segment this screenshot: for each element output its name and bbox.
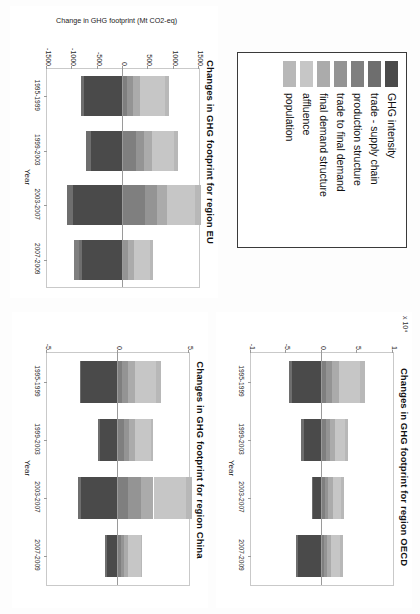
legend-item-label: population bbox=[285, 93, 296, 141]
legend-item: trade - supply chain bbox=[368, 61, 382, 239]
y-tick-label: -500 bbox=[95, 52, 102, 66]
legend-swatch bbox=[284, 61, 297, 87]
bar-segment bbox=[312, 477, 313, 520]
bar-stack bbox=[251, 469, 393, 527]
bar-segment bbox=[165, 76, 170, 116]
y-tick-label: -1500 bbox=[45, 48, 52, 66]
bar-segment bbox=[296, 535, 298, 578]
legend-swatch bbox=[352, 61, 365, 87]
x-tick-mark bbox=[44, 440, 47, 441]
bar-segment bbox=[133, 76, 141, 116]
bar-stack bbox=[47, 124, 199, 179]
y-tick-label: 500 bbox=[146, 54, 153, 66]
bar-segment bbox=[78, 477, 81, 520]
bar-segment bbox=[98, 419, 99, 462]
bar-segment bbox=[151, 419, 154, 462]
bar bbox=[251, 361, 393, 404]
bar-segment bbox=[174, 131, 178, 171]
legend-item: final demand structure bbox=[317, 61, 331, 239]
bar bbox=[251, 535, 393, 578]
bar bbox=[47, 240, 199, 280]
y-tick-label: 5 bbox=[355, 346, 362, 350]
x-tick-mark bbox=[44, 260, 47, 261]
legend-item: GHG intensity bbox=[385, 61, 399, 239]
x-tick-mark bbox=[44, 96, 47, 97]
bar-segment bbox=[105, 535, 106, 578]
legend-item-label: production structure bbox=[353, 93, 364, 186]
bar-segment bbox=[156, 361, 160, 404]
bar-segment bbox=[128, 477, 141, 520]
bar-segment bbox=[289, 361, 292, 404]
plot-area-eu bbox=[46, 68, 200, 288]
bar-segment bbox=[128, 361, 135, 404]
plot-area-oecd bbox=[250, 352, 394, 586]
y-tick-label: 5 bbox=[187, 346, 194, 350]
bar-segment bbox=[67, 185, 74, 225]
y-tick-mark bbox=[46, 66, 47, 69]
bar-segment bbox=[298, 535, 322, 578]
bar-segment bbox=[360, 361, 364, 404]
legend-item: population bbox=[283, 61, 297, 239]
y-tick-label: -5 bbox=[284, 344, 291, 350]
x-tick-label: 1995-1999 bbox=[34, 79, 41, 111]
x-tick-label: 1999-2003 bbox=[238, 423, 245, 455]
y-tick-label: -5 bbox=[45, 344, 52, 350]
bar-segment bbox=[332, 361, 339, 404]
bar bbox=[47, 419, 189, 462]
legend-swatch bbox=[335, 61, 348, 87]
zero-line bbox=[122, 69, 123, 287]
x-tick-label: 1995-1999 bbox=[238, 365, 245, 397]
bar-segment bbox=[304, 419, 322, 462]
bar-stack bbox=[47, 527, 189, 585]
y-tick-mark bbox=[46, 350, 47, 353]
bar-stack bbox=[47, 178, 199, 233]
legend-item-label: affluence bbox=[302, 93, 313, 135]
bar-stack bbox=[47, 411, 189, 469]
x-tick-mark bbox=[44, 205, 47, 206]
y-tick-label: 0 bbox=[320, 346, 327, 350]
bar bbox=[47, 361, 189, 404]
legend-item-label: trade - supply chain bbox=[370, 93, 381, 185]
x-tick-mark bbox=[44, 498, 47, 499]
bar-segment bbox=[331, 535, 341, 578]
bar-segment bbox=[301, 419, 303, 462]
x-tick-label: 2003-2007 bbox=[34, 481, 41, 513]
bar-stack bbox=[251, 411, 393, 469]
bar-segment bbox=[100, 419, 118, 462]
bar-segment bbox=[73, 185, 123, 225]
x-tick-mark bbox=[248, 382, 251, 383]
bar-group-china bbox=[47, 353, 189, 585]
bar bbox=[47, 131, 199, 171]
legend-swatch bbox=[386, 61, 399, 87]
bar-segment bbox=[195, 185, 201, 225]
bar-segment bbox=[145, 185, 157, 225]
legend-item: production structure bbox=[351, 61, 365, 239]
y-tick-mark bbox=[250, 350, 251, 353]
y-tick-label: 1000 bbox=[171, 50, 178, 66]
bar-segment bbox=[136, 131, 144, 171]
legend-item-label: final demand structure bbox=[319, 93, 330, 197]
y-tick-label: 0 bbox=[116, 346, 123, 350]
x-tick-label: 1995-1999 bbox=[34, 365, 41, 397]
bar-segment bbox=[144, 131, 153, 171]
bar-stack bbox=[251, 527, 393, 585]
x-tick-label: 1999-2003 bbox=[34, 134, 41, 166]
bar-segment bbox=[81, 76, 85, 116]
bar-stack bbox=[47, 233, 199, 288]
legend-swatch bbox=[318, 61, 331, 87]
legend-box: GHG intensitytrade - supply chainproduct… bbox=[237, 52, 407, 248]
bar bbox=[47, 76, 199, 116]
bar-segment bbox=[333, 477, 342, 520]
bar-segment bbox=[81, 477, 118, 520]
legend-item-label: GHG intensity bbox=[387, 93, 398, 158]
x-tick-mark bbox=[248, 440, 251, 441]
y-tick-label: -1000 bbox=[70, 48, 77, 66]
chart-panel-eu: Changes in GHG footprint for region EU 1… bbox=[10, 6, 218, 298]
bar-stack bbox=[251, 353, 393, 411]
bar-segment bbox=[345, 419, 348, 462]
y-tick-label: 0 bbox=[121, 62, 128, 66]
y-tick-label: 1500 bbox=[197, 50, 204, 66]
y-axis-label-eu: Change in GHG footprint (Mt CO2-eq) bbox=[56, 16, 177, 25]
bar-segment bbox=[292, 361, 322, 404]
legend-item-label: trade to final demand bbox=[336, 93, 347, 192]
